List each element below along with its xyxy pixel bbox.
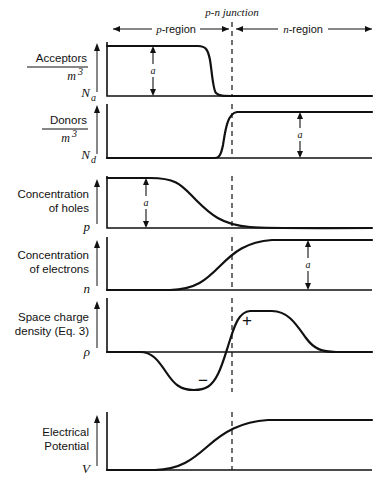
panel-acceptors: a Acceptors m 3 N a	[27, 42, 372, 103]
axis-symbol-acceptors: N	[80, 85, 91, 100]
axis-symbol-donors: N	[80, 147, 91, 162]
panel-label-space-charge-2: density (Eq. 3)	[15, 325, 89, 337]
junction-label-text: p-n junction	[204, 6, 259, 18]
panel-label-electrons-1: Concentration	[17, 249, 89, 261]
panel-potential: Electrical Potential V	[42, 412, 372, 476]
panel-label-donors-exp: 3	[71, 128, 77, 139]
panel-label-acceptors-2: m	[67, 69, 76, 83]
panel-holes: a Concentration of holes p	[17, 176, 372, 234]
axis-subscript-donors: d	[91, 154, 97, 165]
yaxis-arrow-space-charge	[94, 301, 100, 348]
yaxis-arrow-electrons	[94, 240, 100, 286]
panel-label-donors-1: Donors	[50, 114, 87, 126]
panel-donors: a Donors m 3 N d	[42, 104, 372, 165]
amplitude-label-donors: a	[298, 129, 303, 140]
panel-label-holes-2: of holes	[49, 202, 90, 214]
axis-subscript-acceptors: a	[91, 92, 96, 103]
yaxis-arrow-holes	[94, 179, 100, 224]
figure-root: p-n junction p-region n-region a	[0, 0, 386, 481]
p-region-label: p-region	[155, 23, 196, 35]
panel-label-acceptors-1: Acceptors	[36, 52, 87, 64]
axis-symbol-electrons: n	[84, 281, 91, 296]
panel-label-electrons-2: of electrons	[30, 263, 90, 275]
amplitude-label-holes: a	[144, 197, 149, 208]
axis-symbol-holes: p	[83, 219, 91, 234]
panel-label-acceptors-exp: 3	[77, 66, 83, 77]
panel-label-potential-2: Potential	[44, 440, 89, 452]
panel-label-potential-1: Electrical	[42, 426, 89, 438]
panel-label-space-charge-1: Space charge	[18, 311, 89, 323]
panel-label-donors-2: m	[61, 131, 70, 145]
minus-sign-label: −	[198, 371, 208, 390]
n-region-label: n-region	[283, 23, 323, 35]
amplitude-label-acceptors: a	[151, 65, 156, 76]
yaxis-arrow-donors	[94, 105, 100, 154]
amplitude-label-electrons: a	[306, 259, 311, 270]
panel-space-charge: Space charge density (Eq. 3) ρ + −	[15, 298, 372, 390]
yaxis-arrow-potential	[94, 415, 100, 466]
pn-junction-figure: p-n junction p-region n-region a	[0, 0, 386, 481]
yaxis-arrow-acceptors	[94, 43, 100, 92]
plus-sign-label: +	[242, 311, 252, 330]
panel-electrons: a Concentration of electrons n	[17, 237, 372, 296]
axis-symbol-space-charge: ρ	[83, 344, 90, 359]
axis-symbol-potential: V	[82, 461, 92, 476]
panel-label-holes-1: Concentration	[17, 188, 89, 200]
